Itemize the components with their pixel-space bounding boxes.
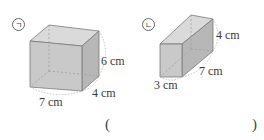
- cuboid-a-height-label: 6 cm: [101, 55, 125, 67]
- figure-b-marker: ㄴ: [142, 18, 155, 31]
- answer-blank[interactable]: [140, 118, 240, 132]
- answer-close-paren: ): [252, 116, 257, 133]
- cuboid-b-height-label: 4 cm: [216, 29, 240, 41]
- cuboid-a-width-label: 7 cm: [39, 96, 63, 108]
- cuboid-a-depth-label: 4 cm: [92, 87, 116, 99]
- cuboid-a: [30, 25, 106, 95]
- cuboid-b-depth-label: 7 cm: [199, 65, 223, 77]
- figure-a-marker: ㄱ: [12, 18, 25, 31]
- answer-open-paren: (: [105, 116, 110, 133]
- cuboid-a-front-face: [30, 41, 82, 91]
- cuboid-b-width-label: 3 cm: [154, 79, 178, 91]
